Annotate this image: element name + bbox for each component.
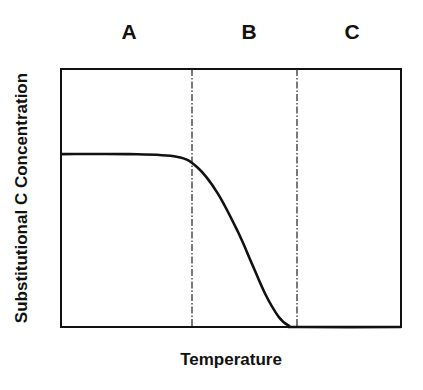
concentration-curve: [61, 154, 401, 327]
plot-area: [0, 0, 423, 390]
plot-frame: [61, 69, 401, 327]
